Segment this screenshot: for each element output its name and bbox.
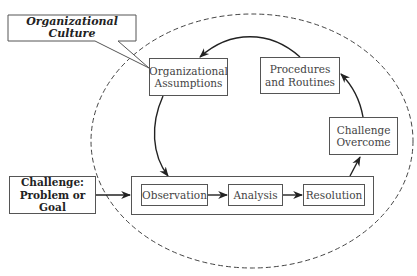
organizational-culture-label: Organizational Culture [8,15,136,41]
challenge-overcome-box: Challenge Overcome [329,117,398,155]
assumptions-line1: Organizational [149,65,228,78]
arrow-process-to-overcome [350,157,360,176]
challenge-line1: Challenge: [10,176,95,189]
resolution-label: Resolution [306,189,363,202]
culture-label-text: Organizational Culture [8,16,136,41]
arrow-overcome-to-procedures [341,74,363,117]
procedures-line1: Procedures [265,63,335,76]
overcome-line2: Overcome [336,136,390,149]
challenge-problem-goal-box: Challenge: Problem or Goal [9,176,96,214]
arrow-assumptions-to-process [154,96,168,176]
resolution-box: Resolution [303,184,365,206]
procedures-routines-box: Procedures and Routines [260,57,340,94]
overcome-line1: Challenge [336,124,390,137]
analysis-box: Analysis [228,184,283,206]
arrow-procedures-to-assumptions [200,37,300,57]
challenge-line2: Problem or Goal [10,189,95,214]
procedures-line2: and Routines [265,76,335,89]
assumptions-line2: Assumptions [149,77,228,90]
analysis-label: Analysis [233,189,277,202]
observation-label: Observation [142,189,207,202]
organizational-assumptions-box: Organizational Assumptions [149,58,228,96]
observation-box: Observation [141,184,208,206]
